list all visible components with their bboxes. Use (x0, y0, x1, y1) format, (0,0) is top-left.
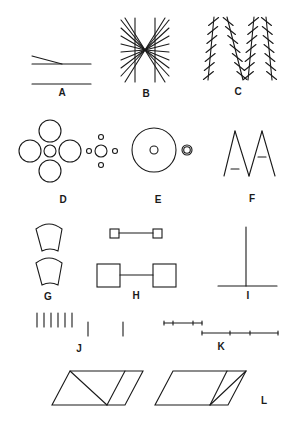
square-shape (97, 264, 120, 287)
radiating-ray (145, 36, 169, 50)
circle-shape (87, 149, 92, 154)
panel-a-converging-lines (32, 56, 91, 84)
circle-shape (19, 140, 41, 162)
radiating-ray (121, 50, 145, 76)
zollner-hatch (230, 45, 240, 53)
label-c: C (234, 86, 241, 97)
label-j: J (76, 343, 82, 354)
zollner-hatch (225, 27, 235, 35)
circle-shape (99, 163, 104, 168)
panel-e-delboeuf-illusion (132, 128, 192, 172)
circle-shape (95, 145, 107, 157)
line-segment (107, 371, 125, 405)
line-segment (262, 131, 275, 176)
panel-d-ebbinghaus-illusion (19, 120, 118, 182)
square-shape (153, 264, 176, 287)
label-a: A (58, 87, 65, 98)
panel-j-filled-space (37, 313, 123, 336)
line-segment (210, 371, 246, 405)
panel-b-hering-illusion (121, 18, 169, 82)
line-segment (70, 371, 107, 405)
zollner-hatch (232, 54, 242, 62)
outline-shape (36, 224, 62, 251)
panel-k-divided-line (164, 321, 278, 335)
circle-shape (113, 149, 118, 154)
label-e: E (155, 194, 162, 205)
circle-shape (99, 135, 104, 140)
label-h: H (132, 290, 139, 301)
label-k: K (217, 341, 225, 352)
circle-shape (39, 160, 61, 182)
radiating-ray (121, 20, 145, 50)
circle-shape (150, 146, 158, 154)
label-g: G (44, 291, 52, 302)
circle-shape (39, 120, 61, 142)
zollner-hatch (235, 63, 245, 71)
zollner-hatch (223, 18, 233, 26)
square-shape (153, 229, 162, 238)
outline-shape (36, 258, 62, 285)
line-segment (32, 56, 62, 64)
panel-i-vertical-horizontal (218, 227, 277, 286)
line-segment (210, 371, 227, 405)
label-d: D (59, 194, 66, 205)
label-b: B (142, 88, 149, 99)
circle-shape (184, 147, 191, 154)
label-l: L (261, 395, 267, 406)
illusions-figure: A B C D E F G H I J K L (0, 0, 292, 423)
outline-shape (52, 371, 143, 405)
outline-shape (155, 371, 246, 405)
line-segment (249, 131, 262, 176)
panel-c-zollner-illusion (203, 17, 276, 80)
circle-shape (44, 145, 56, 157)
panel-f-triangles (224, 131, 275, 176)
panel-l-sander-parallelogram (52, 371, 246, 405)
radiating-ray (145, 20, 169, 50)
zollner-hatch (228, 36, 238, 44)
label-f: F (249, 193, 255, 204)
label-i: I (247, 290, 250, 301)
circle-shape (132, 128, 176, 172)
circle-shape (59, 140, 81, 162)
panel-h-squares (97, 229, 176, 287)
square-shape (110, 229, 119, 238)
radiating-ray (145, 50, 169, 76)
panel-g-jastrow-illusion (36, 224, 62, 285)
radiating-ray (121, 36, 145, 50)
